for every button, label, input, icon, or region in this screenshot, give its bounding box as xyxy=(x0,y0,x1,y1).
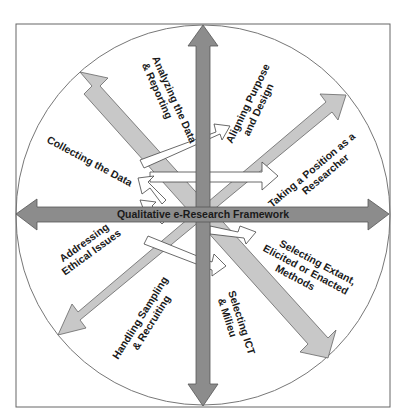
framework-title: Qualitative e-Research Framework xyxy=(117,208,289,220)
framework-diagram: Qualitative e-Research Framework Analyzi… xyxy=(0,0,406,420)
